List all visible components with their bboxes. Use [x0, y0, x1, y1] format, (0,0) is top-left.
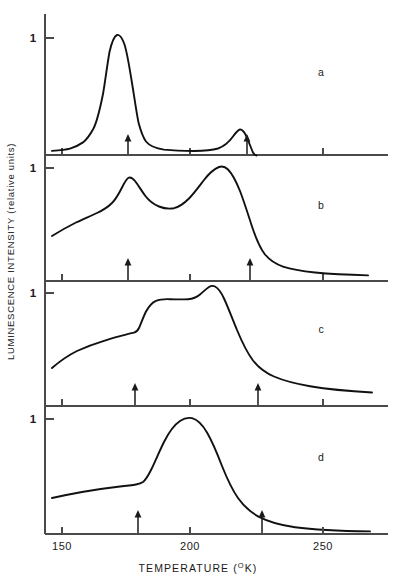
panel-b-arrow-2 [247, 258, 254, 280]
x-axis: 150 200 250 [52, 527, 333, 552]
x-tick-label-200: 200 [180, 540, 200, 552]
panel-b-curve [52, 166, 368, 275]
panel-a-y-tick-label: 1 [30, 32, 37, 44]
x-tick-label-150: 150 [52, 540, 72, 552]
panel-d-arrow-1 [135, 510, 142, 533]
panel-c-y-tick-label: 1 [30, 287, 37, 299]
panel-c-curve [52, 286, 372, 393]
panel-c-x-ticks [62, 399, 323, 406]
luminescence-intensity-figure: LUMINESCENCE INTENSITY (relative units) … [0, 0, 397, 578]
panel-a: 1 a [30, 32, 388, 156]
panel-c: 1 c [30, 286, 388, 406]
x-axis-title: TEMPERATURE (OK) [139, 561, 258, 575]
x-axis-title-degree: O [238, 561, 245, 570]
panel-d-arrow-2 [259, 510, 266, 533]
panel-label-a: a [318, 66, 324, 78]
panel-label-d: d [318, 451, 324, 463]
panel-label-b: b [318, 199, 324, 211]
y-axis-title: LUMINESCENCE INTENSITY (relative units) [5, 143, 16, 360]
panel-a-arrow-1 [125, 134, 132, 154]
panel-c-arrow-2 [255, 383, 262, 405]
x-axis-title-tail: K) [245, 562, 258, 574]
panel-d: 1 d [30, 413, 388, 534]
x-axis-title-main: TEMPERATURE ( [139, 562, 238, 574]
panel-d-curve [52, 418, 370, 532]
panel-b: 1 b [30, 162, 388, 281]
panel-b-y-tick-label: 1 [30, 162, 37, 174]
panel-d-y-tick-label: 1 [30, 413, 37, 425]
panel-a-curve [52, 35, 257, 156]
x-tick-label-250: 250 [313, 540, 333, 552]
panel-label-c: c [318, 323, 323, 335]
x-axis-major-ticks [62, 527, 323, 534]
panel-c-arrow-1 [132, 383, 139, 405]
figure-container: LUMINESCENCE INTENSITY (relative units) … [0, 0, 397, 578]
panel-b-arrow-1 [125, 258, 132, 280]
panel-b-x-ticks [62, 274, 323, 281]
